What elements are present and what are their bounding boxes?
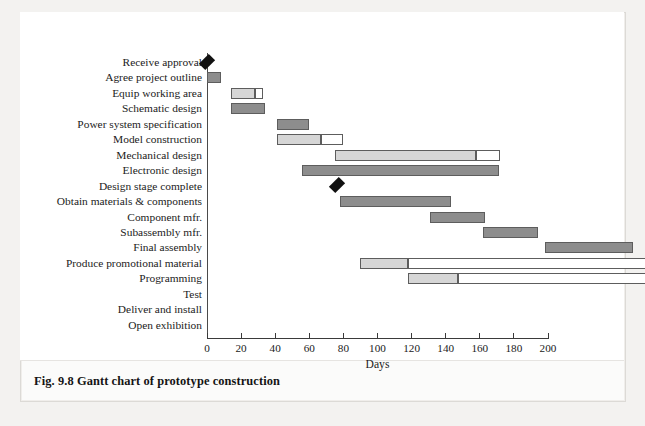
task-label: Component mfr.: [30, 210, 202, 225]
axis-tick-label: 40: [270, 342, 281, 354]
days-axis-line: [207, 338, 549, 339]
axis-tick-label: 120: [403, 342, 420, 354]
axis-tick-label: 0: [204, 342, 210, 354]
axis-tick: [275, 333, 276, 338]
axis-tick-label: 160: [471, 342, 488, 354]
gantt-bar: [207, 72, 221, 83]
gantt-bar: [321, 134, 343, 145]
axis-tick-label: 60: [304, 342, 315, 354]
figure-caption: Fig. 9.8 Gantt chart of prototype constr…: [34, 374, 280, 389]
axis-tick: [548, 333, 549, 338]
task-label: Design stage complete: [30, 179, 202, 194]
axis-tick: [309, 333, 310, 338]
gantt-bar: [335, 150, 477, 161]
task-label: Mechanical design: [30, 148, 202, 163]
axis-tick-label: 200: [540, 342, 557, 354]
task-label: Open exhibition: [30, 318, 202, 333]
gantt-bar: [277, 119, 309, 130]
task-label: Electronic design: [30, 163, 202, 178]
gantt-bar: [277, 134, 321, 145]
task-label: Subassembly mfr.: [30, 225, 202, 240]
task-label: Receive approval: [30, 55, 202, 70]
axis-tick-label: 20: [236, 342, 247, 354]
axis-tick: [343, 333, 344, 338]
gantt-bar: [255, 88, 264, 99]
task-label: Produce promotional material: [30, 256, 202, 271]
gantt-bar: [340, 196, 451, 207]
task-label: Final assembly: [30, 240, 202, 255]
task-label: Agree project outline: [30, 70, 202, 85]
gantt-bar: [458, 273, 645, 284]
task-label: Model construction: [30, 132, 202, 147]
axis-tick: [377, 333, 378, 338]
axis-tick-label: 80: [338, 342, 349, 354]
gantt-bar: [430, 212, 485, 223]
gantt-bar: [302, 165, 498, 176]
gantt-chart: Receive approvalAgree project outlineEqu…: [0, 0, 645, 426]
category-axis-line: [207, 53, 208, 337]
axis-tick: [241, 333, 242, 338]
gantt-bar: [231, 88, 255, 99]
gantt-bar: [483, 227, 538, 238]
figure-page: Receive approvalAgree project outlineEqu…: [0, 0, 645, 426]
task-label: Deliver and install: [30, 302, 202, 317]
task-label: Power system specification: [30, 117, 202, 132]
gantt-bar: [476, 150, 500, 161]
axis-tick: [207, 333, 208, 338]
task-label: Obtain materials & components: [30, 194, 202, 209]
axis-title: Days: [366, 358, 390, 371]
axis-tick: [411, 333, 412, 338]
task-label: Programming: [30, 271, 202, 286]
gantt-bar: [231, 103, 265, 114]
axis-tick: [479, 333, 480, 338]
axis-tick: [445, 333, 446, 338]
axis-tick-label: 100: [369, 342, 386, 354]
gantt-bar: [408, 273, 457, 284]
gantt-bar: [360, 258, 408, 269]
axis-tick: [513, 333, 514, 338]
axis-tick-label: 140: [437, 342, 454, 354]
task-label: Test: [30, 287, 202, 302]
gantt-bar: [545, 242, 634, 253]
axis-tick-label: 180: [506, 342, 523, 354]
task-label: Equip working area: [30, 86, 202, 101]
task-label: Schematic design: [30, 101, 202, 116]
gantt-bar: [408, 258, 645, 269]
